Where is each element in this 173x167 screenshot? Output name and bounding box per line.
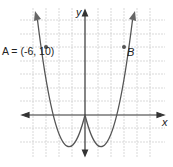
point-b [122, 45, 126, 49]
y-axis [83, 10, 88, 156]
x-axis-label: x [161, 116, 168, 128]
y-axis-up-arrow-icon [83, 10, 88, 16]
x-axis-left-arrow-icon [22, 113, 29, 118]
y-axis-down-arrow-icon [83, 150, 88, 156]
grid [20, 8, 165, 158]
curve-right-arrow-icon [129, 11, 136, 21]
curve-left-arrow-icon [34, 11, 41, 21]
x-axis [22, 113, 164, 118]
coordinate-plane: y x A = (-6, 10) B [0, 0, 173, 167]
point-a-label: A = (-6, 10) [2, 45, 54, 57]
point-b-label: B [127, 46, 134, 58]
